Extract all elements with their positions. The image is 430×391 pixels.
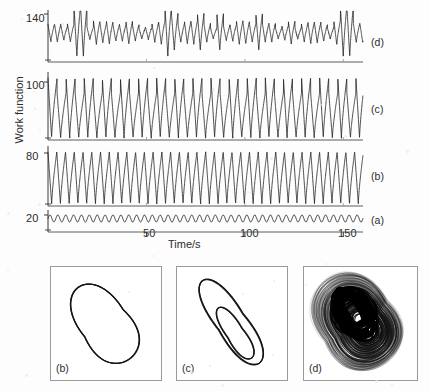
scan-speck: [375, 380, 378, 383]
phase-portrait-label-d: (d): [309, 362, 322, 374]
scan-speck: [242, 293, 244, 295]
scan-speck: [221, 384, 224, 387]
scan-speck: [34, 108, 36, 110]
scan-speck: [33, 91, 35, 93]
scan-speck: [406, 150, 409, 153]
scan-speck: [25, 374, 28, 377]
scan-speck: [153, 67, 155, 69]
phase-portrait-d: (d): [303, 266, 418, 381]
scan-speck: [128, 291, 130, 293]
scan-speck: [320, 104, 322, 106]
scan-speck: [61, 23, 64, 26]
scan-speck: [273, 280, 275, 282]
scan-speck: [190, 371, 193, 374]
scan-speck: [391, 384, 393, 386]
scan-speck: [344, 135, 347, 138]
scan-speck: [7, 269, 9, 271]
scan-speck: [249, 192, 251, 194]
scan-speck: [325, 263, 327, 265]
phase-portrait-c: (c): [176, 266, 288, 381]
scan-speck: [209, 365, 211, 367]
time-series-plot: [0, 0, 430, 260]
phase-portrait-label-b: (b): [56, 362, 69, 374]
figure-root: Work function Time/s 140 100 80 20 50 10…: [0, 0, 430, 391]
phase-portrait-b: (b): [50, 266, 162, 381]
scan-speck: [399, 316, 401, 318]
scan-speck: [212, 88, 215, 91]
